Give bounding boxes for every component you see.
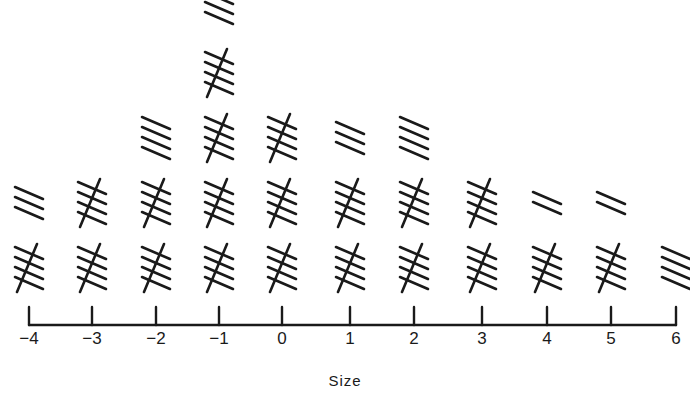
tally-column [597, 192, 625, 292]
x-tick-label: −4 [19, 329, 38, 349]
x-tick-label: 4 [542, 329, 551, 349]
x-tick-label: −1 [209, 329, 228, 349]
x-tick-label: 1 [345, 329, 354, 349]
tally-column [336, 122, 364, 292]
tally-column [662, 247, 690, 289]
x-axis-title: Size [328, 372, 361, 389]
tally-column [142, 117, 170, 292]
x-tick-label: 6 [671, 329, 680, 349]
tally-column [15, 187, 43, 292]
x-tick-label: 5 [606, 329, 615, 349]
x-tick-label: 2 [409, 329, 418, 349]
tally-column [78, 179, 106, 292]
tally-column [468, 179, 496, 292]
x-tick-label: 0 [277, 329, 286, 349]
tally-column [205, 0, 233, 292]
x-tick-label: −2 [146, 329, 165, 349]
x-tick-label: 3 [477, 329, 486, 349]
tally-column [533, 192, 561, 292]
tally-column [400, 117, 428, 292]
x-tick-label: −3 [82, 329, 101, 349]
tally-column [268, 114, 296, 292]
